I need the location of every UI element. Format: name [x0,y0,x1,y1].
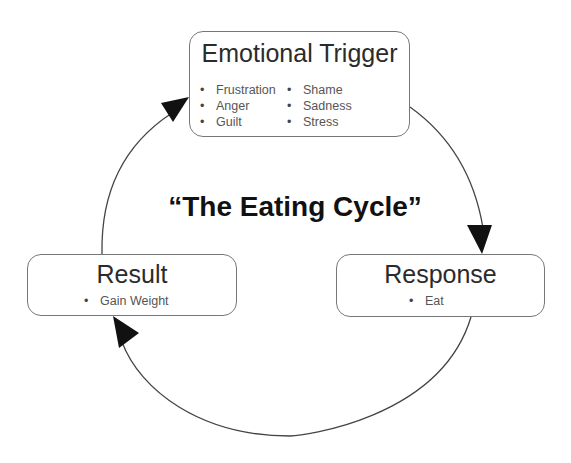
list-item: Sadness [285,98,352,114]
arrow-response-to-result [122,317,471,436]
diagram-title: “The Eating Cycle” [150,191,440,223]
node-title: Result [28,260,236,289]
node-title: Emotional Trigger [190,39,409,68]
trigger-list-left: Frustration Anger Guilt [198,82,276,130]
node-title: Response [337,260,544,289]
list-item: Guilt [198,114,276,130]
list-item: Gain Weight [82,293,169,309]
list-item: Stress [285,114,352,130]
list-item: Anger [198,98,276,114]
node-response: Response Eat [336,254,545,317]
node-result: Result Gain Weight [27,254,237,316]
arrowhead-response-icon [467,225,492,254]
arrow-result-to-trigger [102,113,172,254]
list-item: Shame [285,82,352,98]
response-list: Eat [407,293,444,309]
arrowhead-result-icon [113,316,139,348]
result-list: Gain Weight [82,293,169,309]
list-item: Frustration [198,82,276,98]
trigger-list-right: Shame Sadness Stress [285,82,352,130]
list-item: Eat [407,293,444,309]
node-emotional-trigger: Emotional Trigger Frustration Anger Guil… [189,31,410,137]
